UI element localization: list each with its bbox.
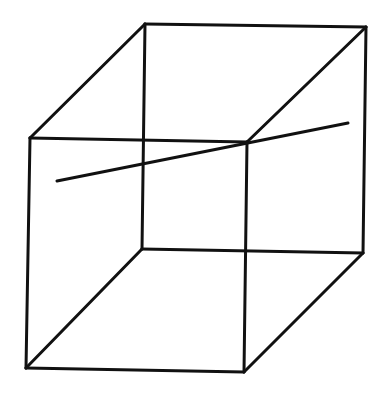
cube-edge-front-bottom-right-to-front-bottom-left bbox=[26, 368, 244, 372]
cube-edge-back-bottom-left-to-back-top-left bbox=[142, 24, 145, 249]
cube-edge-front-bottom-right-to-back-bottom-right bbox=[244, 253, 363, 372]
cube-edge-back-top-right-to-back-bottom-right bbox=[363, 27, 366, 253]
cube-edge-back-bottom-right-to-back-bottom-left bbox=[142, 249, 363, 253]
cube-edge-front-bottom-left-to-back-bottom-left bbox=[26, 249, 142, 368]
cube-edge-front-top-left-to-front-top-right bbox=[30, 138, 247, 142]
necker-cube-diagram bbox=[0, 0, 390, 402]
cube-edge-front-top-right-to-front-bottom-right bbox=[244, 142, 247, 372]
cube-edge-front-top-right-to-back-top-right bbox=[247, 27, 366, 142]
cube-edges bbox=[26, 24, 366, 372]
cube-edge-front-bottom-left-to-front-top-left bbox=[26, 138, 30, 368]
cube-edge-front-top-left-to-back-top-left bbox=[30, 24, 145, 138]
cube-edge-back-top-left-to-back-top-right bbox=[145, 24, 366, 27]
diagonal-line bbox=[57, 123, 348, 181]
